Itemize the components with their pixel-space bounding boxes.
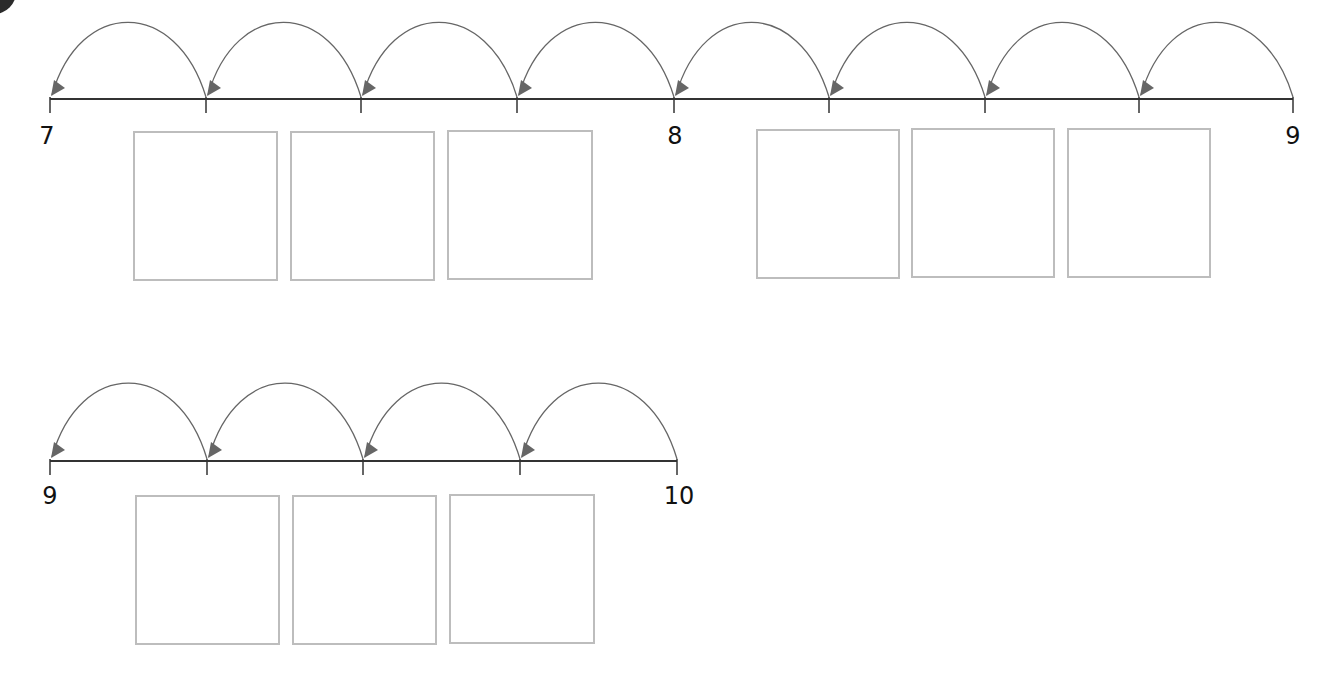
answer-box[interactable] (292, 495, 437, 645)
arrowhead-icon (208, 442, 222, 458)
arrowhead-icon (518, 80, 532, 96)
arrowhead-icon (51, 442, 65, 458)
answer-box[interactable] (449, 494, 595, 644)
jump-arc (365, 383, 520, 459)
answer-box[interactable] (911, 128, 1055, 278)
jump-arc (209, 383, 363, 459)
jump-arc (52, 383, 207, 459)
jump-arc (987, 22, 1139, 97)
number-label: 9 (1285, 124, 1300, 148)
answer-box[interactable] (290, 131, 435, 281)
answer-box[interactable] (1067, 128, 1211, 278)
arrowhead-icon (362, 80, 376, 96)
arrowhead-icon (207, 80, 221, 96)
number-line-line-9-to-10 (50, 383, 677, 475)
jump-arc (522, 383, 677, 459)
arrowhead-icon (1140, 80, 1154, 96)
jump-arc (519, 22, 674, 97)
answer-box[interactable] (133, 131, 278, 281)
arrowhead-icon (986, 80, 1000, 96)
jump-arc (831, 22, 985, 97)
arrowhead-icon (364, 442, 378, 458)
number-label: 10 (664, 484, 695, 508)
arrowhead-icon (51, 80, 65, 96)
number-label: 9 (42, 484, 57, 508)
number-line-line-7-to-9 (50, 22, 1293, 113)
number-label: 7 (39, 124, 54, 148)
arrowhead-icon (830, 80, 844, 96)
answer-box[interactable] (135, 495, 280, 645)
answer-box[interactable] (447, 130, 593, 280)
arrowhead-icon (675, 80, 689, 96)
number-label: 8 (667, 124, 682, 148)
jump-arc (208, 22, 361, 97)
answer-box[interactable] (756, 129, 900, 279)
jump-arc (52, 22, 206, 97)
arrowhead-icon (521, 442, 535, 458)
jump-arc (1141, 22, 1293, 97)
jump-arc (363, 22, 517, 97)
jump-arc (676, 22, 829, 97)
